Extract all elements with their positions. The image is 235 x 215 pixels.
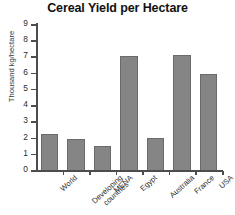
x-tick: [222, 171, 224, 175]
y-tick-label: 2: [23, 132, 28, 142]
bar: [147, 138, 165, 170]
y-tick-label: 3: [23, 115, 28, 125]
y-tick: 2: [31, 138, 36, 140]
y-tick-label: 7: [23, 50, 28, 60]
y-tick: 8: [31, 40, 36, 42]
y-tick: 1: [31, 154, 36, 156]
y-tick: 3: [31, 121, 36, 123]
bar: [94, 146, 112, 170]
cereal-yield-bar-chart: Cereal Yield per Hectare Thousand kg/hec…: [0, 0, 235, 215]
x-tick: [142, 171, 144, 175]
x-tick: [195, 171, 197, 175]
y-tick-label: 9: [23, 18, 28, 28]
bar: [173, 55, 191, 170]
x-tick: [63, 171, 65, 175]
y-axis-line: [36, 23, 38, 171]
y-tick-label: 6: [23, 67, 28, 77]
x-axis-label: Egypt: [139, 174, 159, 193]
x-axis-label: World: [59, 174, 79, 194]
y-tick: 7: [31, 56, 36, 58]
y-tick-label: 4: [23, 99, 28, 109]
y-tick-label: 5: [23, 83, 28, 93]
y-tick: 9: [31, 24, 36, 26]
y-tick: 4: [31, 105, 36, 107]
x-axis-label: Australia: [168, 174, 196, 200]
x-tick: [169, 171, 171, 175]
bar: [200, 74, 218, 170]
y-tick-label: 1: [23, 148, 28, 158]
y-axis-title: Thousand kg/hectare: [7, 13, 16, 121]
plot-area: 0123456789: [36, 24, 222, 170]
y-tick-label: 8: [23, 34, 28, 44]
x-axis-label: France: [193, 174, 216, 196]
bar: [120, 56, 138, 170]
chart-title: Cereal Yield per Hectare: [0, 1, 235, 15]
bar: [41, 134, 59, 170]
y-tick: 0: [31, 170, 36, 172]
x-axis-label: USA: [218, 174, 235, 191]
bar: [67, 139, 85, 170]
y-tick-label: 0: [23, 164, 28, 174]
x-tick: [89, 171, 91, 175]
y-tick: 5: [31, 89, 36, 91]
y-tick: 6: [31, 73, 36, 75]
